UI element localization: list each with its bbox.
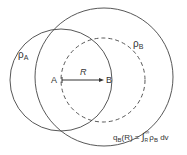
arrow-head: [99, 78, 104, 82]
label-distance-r: R: [80, 67, 87, 77]
density-overlap-diagram: ρA ρB A B R qB(R) = ∫R∞ρB dv: [0, 0, 187, 155]
formula: qB(R) = ∫R∞ρB dv: [113, 129, 169, 143]
label-rho-b: ρB: [133, 38, 144, 50]
label-rho-a: ρA: [18, 49, 29, 61]
label-point-b: B: [106, 75, 112, 85]
label-point-a: A: [51, 75, 57, 85]
